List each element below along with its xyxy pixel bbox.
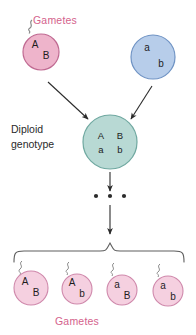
gamete-aB-body <box>107 275 137 305</box>
flagellum-tail-icon <box>29 20 32 34</box>
parent-blue-allele-top: a <box>144 42 150 53</box>
gamete-Ab[interactable]: A b <box>62 262 92 304</box>
gamete-Ab-allele-top: A <box>69 277 76 288</box>
ellipsis-dot <box>108 194 112 198</box>
diploid-allele-a: a <box>98 144 104 155</box>
gamete-AB-body <box>14 271 48 305</box>
diploid-genotype-label: Diploid genotype <box>11 122 54 152</box>
diploid-allele-b: b <box>117 144 122 155</box>
flagellum-tail-icon <box>66 262 69 275</box>
flagellum-tail-icon <box>157 264 160 277</box>
gamete-AB[interactable]: A B <box>14 261 48 305</box>
gamete-ab-allele-bottom: b <box>170 291 176 302</box>
gamete-Ab-allele-bottom: b <box>79 288 85 299</box>
gametes-label-top: Gametes <box>33 14 77 26</box>
offspring-brace <box>14 243 184 262</box>
diploid-genotype-cell[interactable]: A B a b <box>83 115 137 169</box>
parent-gamete-pink-body <box>23 34 59 70</box>
parent-gamete-pink[interactable]: A B <box>23 20 59 70</box>
ellipsis-dot <box>122 194 126 198</box>
arrow-blue-to-diploid <box>131 86 152 119</box>
flagellum-tail-icon <box>19 261 22 275</box>
genetics-diagram: A B a b A B a b <box>0 0 196 335</box>
gamete-Ab-body <box>62 274 92 304</box>
diploid-label-line1: Diploid <box>11 122 54 137</box>
parent-pink-allele-bottom: B <box>43 50 50 61</box>
diploid-allele-A: A <box>98 130 105 141</box>
gametes-label-bottom: Gametes <box>55 315 99 327</box>
ellipsis-dot <box>94 194 98 198</box>
diploid-genotype-body <box>83 115 137 169</box>
gamete-AB-allele-top: A <box>22 276 29 287</box>
gamete-ab[interactable]: a b <box>153 264 183 306</box>
parent-pink-allele-top: A <box>32 39 39 50</box>
parent-gamete-blue[interactable]: a b <box>131 35 175 79</box>
parent-gamete-blue-body <box>131 35 175 79</box>
diploid-allele-B: B <box>117 130 123 141</box>
arrow-pink-to-diploid <box>48 82 88 119</box>
diploid-label-line2: genotype <box>11 137 54 152</box>
gamete-aB-allele-top: a <box>114 279 120 290</box>
meiosis-ellipsis-dots <box>94 194 126 198</box>
gamete-ab-body <box>153 276 183 306</box>
gamete-aB[interactable]: a B <box>107 263 137 305</box>
diagram-canvas: A B a b A B a b <box>0 0 196 335</box>
gamete-AB-allele-bottom: B <box>33 287 40 298</box>
flagellum-tail-icon <box>111 263 114 276</box>
gamete-ab-allele-top: a <box>160 280 166 291</box>
parent-blue-allele-bottom: b <box>158 58 164 69</box>
gamete-aB-allele-bottom: B <box>124 290 131 301</box>
